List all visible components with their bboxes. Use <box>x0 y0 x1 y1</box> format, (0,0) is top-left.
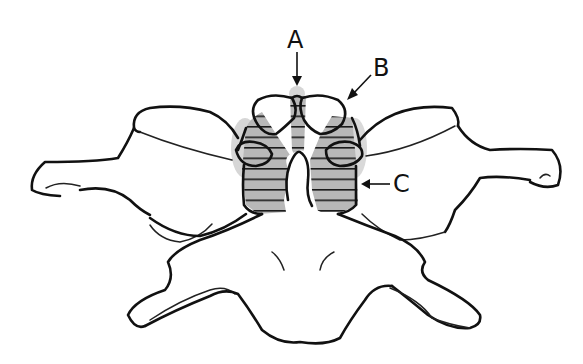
hatched-region-center <box>290 96 306 158</box>
label-b: B <box>373 56 389 80</box>
arrow-c <box>361 179 390 189</box>
arrow-b <box>347 75 371 100</box>
transverse-process-right <box>360 107 560 240</box>
transverse-process-left <box>32 107 246 242</box>
label-c: C <box>393 172 410 196</box>
label-a: A <box>287 28 303 52</box>
arrow-a <box>292 52 302 86</box>
vertebra-diagram <box>0 0 583 364</box>
